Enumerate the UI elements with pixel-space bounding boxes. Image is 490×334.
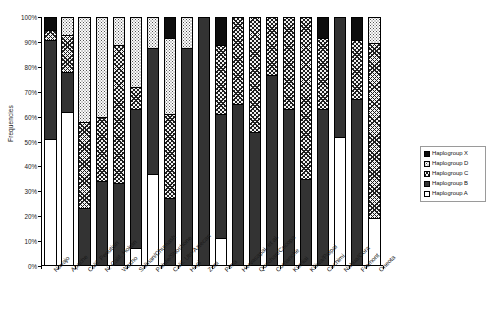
bar-segment [352,40,362,99]
bar-segment [199,18,209,265]
bar-segment [233,18,243,104]
bar-group [144,17,161,265]
stacked-bar[interactable] [113,17,125,265]
bar-segment [318,18,328,38]
stacked-bar[interactable] [334,17,346,265]
legend-swatch-icon [424,171,430,177]
y-axis-tick-label: 40% [11,163,37,170]
bar-segment [301,18,311,179]
y-axis-tick-mark [38,241,41,242]
bar-segment [216,45,226,114]
stacked-bar[interactable] [368,17,380,265]
plot-inner: 100%90%80%70%60%50%40%30%20%10%0% [41,17,383,266]
y-axis-tick-label: 20% [11,213,37,220]
y-axis-tick-label: 50% [11,138,37,145]
bar-group [42,17,59,265]
legend-swatch-icon [424,151,430,157]
bar-group [178,17,195,265]
chart-legend: Haplogroup XHaplogroup DHaplogroup CHapl… [420,146,486,202]
stacked-bar[interactable] [215,17,227,265]
stacked-bar[interactable] [317,17,329,265]
x-axis-labels: NavajoApacheCalif. PenutianN. Calif. Hok… [41,268,383,334]
bar-segment [45,40,55,139]
bar-segment [131,109,141,247]
legend-label: Haplogroup C [432,171,468,177]
stacked-bar[interactable] [44,17,56,265]
bar-segment [79,122,89,208]
stacked-bar[interactable] [266,17,278,265]
bar-group [247,17,264,265]
legend-swatch-icon [424,191,430,197]
plot-area: 100%90%80%70%60%50%40%30%20%10%0% [41,17,383,266]
bar-segment [97,18,107,117]
legend-item[interactable]: Haplogroup A [424,189,483,199]
y-axis-tick-mark [38,216,41,217]
chart-figure: Frequencies 100%90%80%70%60%50%40%30%20%… [0,0,490,334]
bar-segment [216,114,226,238]
legend-swatch-icon [424,181,430,187]
bar-group [281,17,298,265]
stacked-bar[interactable] [232,17,244,265]
stacked-bar[interactable] [283,17,295,265]
bar-group [230,17,247,265]
stacked-bar[interactable] [96,17,108,265]
y-axis-tick-mark [38,92,41,93]
y-axis-tick-mark [38,67,41,68]
bar-segment [352,18,362,40]
bar-segment [182,48,192,265]
legend-item[interactable]: Haplogroup C [424,169,483,179]
stacked-bar[interactable] [181,17,193,265]
bar-segment [301,179,311,265]
bar-segment [45,18,55,30]
y-axis-tick-mark [38,166,41,167]
stacked-bar[interactable] [300,17,312,265]
bar-segment [62,72,72,112]
y-axis-tick-label: 10% [11,238,37,245]
bar-segment [131,18,141,87]
bar-segment [352,99,362,264]
bar-segment [216,238,226,265]
bar-segment [79,18,89,122]
bar-segment [267,18,277,75]
legend-item[interactable]: Haplogroup X [424,149,483,159]
bar-group [332,17,349,265]
bar-segment [335,18,345,137]
bar-segment [114,18,124,45]
y-axis-tick-label: 0% [11,263,37,270]
y-axis-tick-label: 90% [11,38,37,45]
y-axis-tick-mark [38,42,41,43]
stacked-bar[interactable] [164,17,176,265]
bar-series-container [42,17,383,265]
stacked-bar[interactable] [249,17,261,265]
bar-group [195,17,212,265]
stacked-bar[interactable] [78,17,90,265]
legend-item[interactable]: Haplogroup D [424,159,483,169]
bar-segment [62,112,72,265]
stacked-bar[interactable] [147,17,159,265]
legend-swatch-icon [424,161,430,167]
bar-segment [284,18,294,109]
stacked-bar[interactable] [351,17,363,265]
y-axis-tick-mark [38,191,41,192]
stacked-bar[interactable] [198,17,210,265]
stacked-bar[interactable] [130,17,142,265]
bar-segment [233,104,243,265]
bar-group [127,17,144,265]
bar-segment [318,109,328,265]
bar-segment [165,18,175,38]
bar-segment [182,18,192,48]
bar-segment [216,18,226,45]
stacked-bar[interactable] [61,17,73,265]
bar-segment [369,18,379,43]
bar-group [59,17,76,265]
bar-segment [250,18,260,132]
bar-segment [45,30,55,40]
bar-segment [250,132,260,265]
bar-group [212,17,229,265]
bar-segment [148,18,158,48]
bar-group [264,17,281,265]
legend-item[interactable]: Haplogroup B [424,179,483,189]
y-axis-tick-mark [38,117,41,118]
legend-label: Haplogroup X [432,151,468,157]
bar-segment [165,38,175,115]
